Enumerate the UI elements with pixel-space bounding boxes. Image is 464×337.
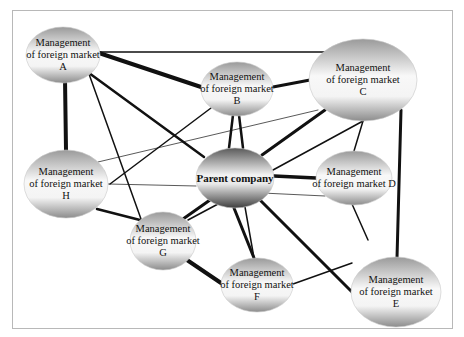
edge-f-e — [293, 263, 352, 284]
node-parent-company — [196, 148, 274, 208]
nodes-layer — [24, 27, 441, 327]
node-foreign-market-h — [24, 150, 108, 218]
diagram-canvas: Management of foreign market AManagement… — [0, 0, 464, 337]
edge-b-p — [239, 115, 243, 148]
node-foreign-market-b — [201, 62, 273, 116]
network-graph — [0, 0, 464, 337]
node-foreign-market-f — [221, 258, 293, 312]
edge-c-p — [262, 110, 325, 155]
node-foreign-market-e — [351, 257, 441, 327]
edge-d-e — [352, 204, 368, 240]
edge-g-f — [187, 260, 221, 283]
edge-a-b — [99, 53, 201, 87]
edge-c-h — [98, 110, 318, 162]
edge-c-e — [397, 110, 401, 258]
edge-a-h — [65, 79, 66, 150]
edge-p-f — [234, 208, 254, 258]
edge-a-p — [89, 73, 204, 157]
edge-p-d — [274, 176, 316, 178]
edge-p-h — [108, 184, 196, 186]
edge-b-p — [229, 115, 233, 148]
node-foreign-market-c — [309, 39, 417, 121]
node-foreign-market-a — [26, 27, 100, 83]
edge-h-g — [97, 209, 140, 220]
node-foreign-market-g — [130, 212, 196, 270]
node-foreign-market-d — [316, 151, 392, 205]
edge-b-h — [110, 108, 211, 184]
edge-p-d — [262, 193, 325, 196]
edge-b-c — [273, 80, 310, 87]
